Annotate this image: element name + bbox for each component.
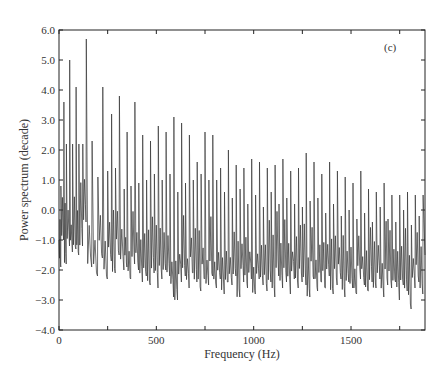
spectrum-line [59, 39, 425, 309]
plot-frame [59, 30, 425, 330]
y-tick-label: −4.0 [35, 324, 55, 336]
x-tick-label: 500 [148, 334, 165, 346]
power-spectrum-chart: 6.05.04.03.02.01.00.0−1.0−2.0−3.0−4.0 05… [0, 0, 448, 372]
y-tick-label: 2.0 [41, 144, 55, 156]
y-tick-label: 1.0 [41, 174, 55, 186]
x-tick-label: 0 [56, 334, 62, 346]
y-tick-label: 5.0 [41, 54, 55, 66]
x-axis-title: Frequency (Hz) [204, 347, 280, 361]
panel-label: (c) [384, 41, 397, 54]
y-tick-label: −3.0 [35, 294, 55, 306]
x-tick-label: 1500 [340, 334, 363, 346]
y-tick-label: 0.0 [41, 204, 55, 216]
y-tick-label: 3.0 [41, 114, 55, 126]
x-tick-label: 1000 [243, 334, 266, 346]
y-tick-label: −2.0 [35, 264, 55, 276]
y-tick-label: −1.0 [35, 234, 55, 246]
y-tick-label: 6.0 [41, 24, 55, 36]
y-axis-title: Power spectrum (decade) [17, 119, 31, 241]
y-tick-label: 4.0 [41, 84, 55, 96]
y-axis-ticks: 6.05.04.03.02.01.00.0−1.0−2.0−3.0−4.0 [35, 24, 425, 336]
